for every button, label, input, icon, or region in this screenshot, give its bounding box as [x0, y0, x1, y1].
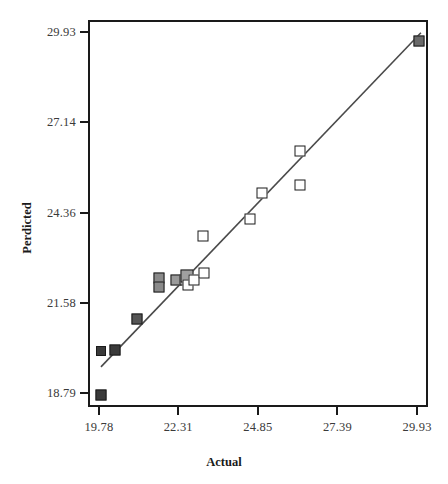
y-tick-mark [80, 392, 88, 394]
data-point-marker [199, 268, 210, 279]
data-point-marker [132, 314, 143, 325]
fit-line-layer [90, 22, 430, 409]
data-point-marker [198, 231, 209, 242]
y-tick-label: 21.58 [10, 295, 76, 310]
y-tick-label: 27.14 [10, 115, 76, 130]
x-tick-label: 19.78 [84, 420, 113, 435]
x-axis-title: Actual [0, 455, 448, 470]
regression-fit-line [101, 33, 421, 367]
plot-area-frame [88, 20, 428, 407]
data-point-marker [244, 214, 255, 225]
x-tick-label: 27.39 [323, 420, 352, 435]
y-tick-label: 29.93 [10, 24, 76, 39]
data-point-marker [153, 281, 164, 292]
data-point-marker [294, 145, 305, 156]
x-tick-label: 22.31 [164, 420, 193, 435]
x-tick-label: 29.93 [402, 420, 431, 435]
scatter-plot-figure: 29.9327.1424.3621.5818.79 19.7822.3124.8… [0, 0, 448, 484]
y-tick-mark [80, 212, 88, 214]
data-point-marker [95, 390, 106, 401]
x-tick-mark [98, 407, 100, 415]
data-point-marker [257, 188, 268, 199]
data-point-marker [295, 180, 306, 191]
x-tick-label: 24.85 [243, 420, 272, 435]
data-point-marker [414, 36, 425, 47]
x-tick-mark [336, 407, 338, 415]
data-point-marker [110, 344, 121, 355]
y-tick-mark [80, 121, 88, 123]
data-point-marker [96, 346, 106, 356]
x-tick-mark [177, 407, 179, 415]
x-tick-mark [416, 407, 418, 415]
x-tick-mark [257, 407, 259, 415]
y-tick-label: 18.79 [10, 386, 76, 401]
y-tick-label: 24.36 [10, 205, 76, 220]
y-tick-mark [80, 302, 88, 304]
y-tick-mark [80, 31, 88, 33]
y-axis-label-container: Perdicted [16, 0, 38, 484]
